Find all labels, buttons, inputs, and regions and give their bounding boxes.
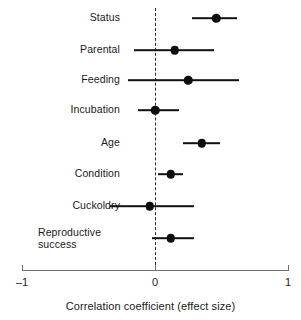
effect-size-point-condition [167, 170, 176, 179]
effect-size-point-parental [171, 46, 180, 55]
row-label-age: Age [0, 137, 120, 149]
row-label-cuckoldry: Cuckoldry [0, 200, 120, 212]
x-axis-title: Correlation coefficient (effect size) [0, 300, 301, 312]
row-label-parental: Parental [0, 44, 120, 56]
effect-size-point-incubation [151, 106, 160, 115]
effect-size-point-reproductive-success [167, 234, 176, 243]
row-label-feeding: Feeding [0, 74, 120, 86]
effect-size-point-status [212, 14, 221, 23]
row-label-condition: Condition [0, 168, 120, 180]
row-label-incubation: Incubation [0, 104, 120, 116]
forest-plot-figure: StatusParentalFeedingIncubationAgeCondit… [0, 0, 301, 320]
effect-size-point-cuckoldry [145, 202, 154, 211]
x-axis-label-max: 1 [285, 276, 291, 288]
x-axis-tick-max [288, 265, 289, 271]
row-label-reproductive-success: Reproductive success [38, 227, 101, 250]
row-label-status: Status [0, 12, 120, 24]
x-axis-tick-mid [155, 265, 156, 271]
x-axis-tick-min [22, 265, 23, 271]
effect-size-point-age [197, 139, 206, 148]
x-axis-label-min: –1 [16, 276, 28, 288]
x-axis-label-mid: 0 [152, 276, 158, 288]
zero-reference-line [155, 8, 156, 270]
effect-size-point-feeding [184, 76, 193, 85]
